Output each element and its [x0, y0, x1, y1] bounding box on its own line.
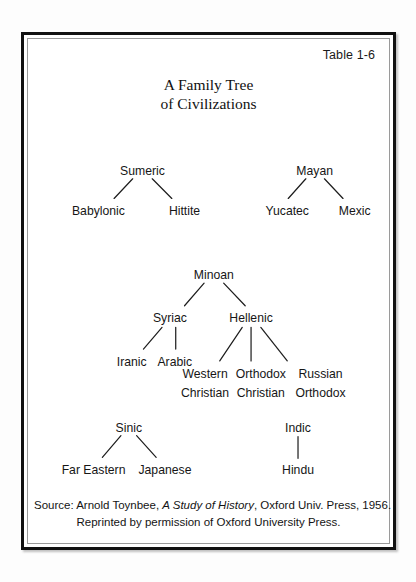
source-suffix: , Oxford Univ. Press, 1956. [254, 499, 391, 511]
node-iranic: Iranic [117, 355, 147, 369]
figure-inner-border: Table 1-6 A Family Tree of Civilizations… [27, 38, 390, 544]
source-work-title: A Study of History [162, 499, 254, 511]
source-prefix: Source: Arnold Toynbee, [34, 499, 162, 511]
node-orthodox-christian-line-2: Christian [237, 386, 285, 400]
node-hittite: Hittite [169, 204, 200, 218]
edge-minoan-hellenic [224, 283, 246, 306]
edge-mayan-mexic [324, 179, 343, 199]
node-babylonic: Babylonic [72, 204, 125, 218]
edge-syriac-iranic [143, 327, 162, 349]
node-western-christian: Western Christian [181, 367, 229, 401]
edge-hellenic-western-christian [220, 327, 243, 360]
node-sinic: Sinic [116, 421, 142, 435]
figure-frame: Table 1-6 A Family Tree of Civilizations… [21, 32, 396, 550]
edge-sumeric-babylonic [114, 179, 133, 199]
family-tree-diagram: Sumeric Babylonic Hittite Mayan Yucatec … [28, 39, 389, 543]
node-western-christian-line-2: Christian [181, 386, 229, 400]
node-russian-orthodox: Russian Orthodox [295, 367, 345, 401]
node-mayan: Mayan [296, 164, 333, 178]
node-syriac: Syriac [153, 311, 187, 325]
node-orthodox-christian: Orthodox Christian [236, 367, 286, 401]
node-hellenic: Hellenic [229, 311, 272, 325]
node-hindu: Hindu [282, 463, 314, 477]
node-russian-orthodox-line-2: Orthodox [295, 386, 345, 400]
node-mexic: Mexic [339, 204, 371, 218]
node-minoan: Minoan [194, 268, 234, 282]
figure-page: Table 1-6 A Family Tree of Civilizations… [0, 0, 416, 582]
node-yucatec: Yucatec [266, 204, 309, 218]
node-orthodox-christian-line-1: Orthodox [236, 367, 286, 381]
edge-mayan-yucatec [288, 179, 306, 199]
edge-minoan-syriac [185, 283, 205, 306]
edge-sumeric-hittite [152, 179, 172, 199]
node-far-eastern: Far Eastern [62, 463, 126, 477]
edge-sinic-japanese [137, 436, 157, 458]
source-note: Source: Arnold Toynbee, A Study of Histo… [34, 497, 383, 531]
node-japanese: Japanese [138, 463, 191, 477]
node-russian-orthodox-line-1: Russian [298, 367, 342, 381]
source-line-1: Source: Arnold Toynbee, A Study of Histo… [34, 497, 383, 514]
source-line-2: Reprinted by permission of Oxford Univer… [34, 514, 383, 531]
edge-hellenic-russian-orthodox [261, 327, 287, 360]
node-sumeric: Sumeric [120, 164, 165, 178]
edge-sinic-far-eastern [102, 436, 121, 458]
node-indic: Indic [285, 421, 311, 435]
node-western-christian-line-1: Western [182, 367, 227, 381]
